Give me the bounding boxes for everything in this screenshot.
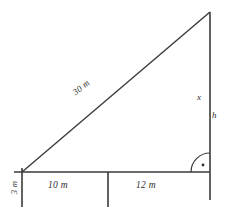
right-angle-arc-icon <box>191 153 210 172</box>
geometry-diagram: 30 m 10 m 12 m 3 m x h <box>0 0 230 208</box>
geometry-canvas <box>0 0 230 208</box>
left-vertical-segment-label: 3 m <box>10 181 19 194</box>
base-left-segment-label: 10 m <box>48 181 68 191</box>
full-vertical-label: h <box>212 111 217 120</box>
hypotenuse-line <box>22 12 210 172</box>
upper-vertical-label: x <box>197 93 201 102</box>
base-right-segment-label: 12 m <box>136 181 156 191</box>
right-angle-dot-icon <box>202 164 205 167</box>
